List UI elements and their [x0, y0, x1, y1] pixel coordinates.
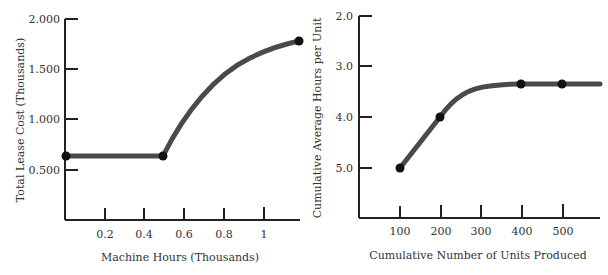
right-y-tick-label: 4.0: [336, 111, 354, 124]
right-x-tick-label: 200: [431, 225, 452, 238]
right-x-tick-label: 300: [471, 225, 492, 238]
left-x-tick-label: 0.4: [135, 228, 153, 241]
charts-canvas: 2.000 1.500 1.000 0.500 0.2 0.4 0.6 0.8 …: [0, 0, 608, 275]
data-point-marker: [396, 164, 405, 173]
right-y-axis-title: Cumulative Average Hours per Unit: [311, 17, 324, 218]
lease-cost-curve: [66, 41, 299, 156]
data-point-marker: [62, 152, 71, 161]
left-x-tick-label: 0.8: [215, 228, 233, 241]
left-x-axis-title: Machine Hours (Thousands): [101, 251, 259, 264]
right-x-tick-label: 400: [512, 225, 533, 238]
left-x-tick-label: 0.6: [175, 228, 193, 241]
data-point-marker: [295, 37, 304, 46]
data-point-marker: [517, 80, 526, 89]
right-x-tick-label: 500: [553, 225, 574, 238]
right-x-tick-label: 100: [390, 225, 411, 238]
left-y-tick-label: 2.000: [29, 13, 61, 26]
learning-curve: [400, 84, 600, 168]
left-y-axis-title: Total Lease Cost (Thousands): [14, 38, 27, 202]
data-point-marker: [159, 152, 168, 161]
right-y-tick-label: 3.0: [336, 60, 354, 73]
left-y-tick-label: 1.500: [29, 63, 61, 76]
left-x-tick-label: 1: [261, 228, 268, 241]
right-x-axis-title: Cumulative Number of Units Produced: [369, 249, 586, 262]
left-chart: 2.000 1.500 1.000 0.500 0.2 0.4 0.6 0.8 …: [14, 13, 304, 264]
left-x-tick-label: 0.2: [96, 228, 114, 241]
right-y-tick-label: 5.0: [336, 162, 354, 175]
left-y-tick-label: 0.500: [29, 164, 61, 177]
left-y-tick-label: 1.000: [29, 113, 61, 126]
data-point-marker: [436, 113, 445, 122]
right-y-tick-label: 2.0: [336, 10, 354, 23]
right-chart: 2.0 3.0 4.0 5.0 100 200 300 400 500 Cumu…: [311, 10, 600, 262]
data-point-marker: [558, 80, 567, 89]
